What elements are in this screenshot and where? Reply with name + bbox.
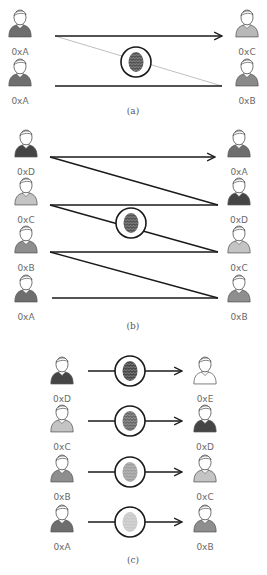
user-label: 0xB: [230, 312, 247, 322]
link-line: [50, 252, 218, 298]
user-label: 0xB: [196, 542, 213, 552]
user-avatar: [236, 10, 258, 37]
user-label: 0xA: [53, 542, 71, 552]
user-avatar: [228, 275, 250, 302]
caption-a: (a): [127, 106, 139, 116]
user-avatar: [51, 455, 73, 482]
user-avatar: [228, 130, 250, 157]
user-label: 0xB: [17, 263, 34, 273]
user-label: 0xD: [230, 215, 248, 225]
user-label: 0xA: [17, 312, 35, 322]
user-label: 0xB: [238, 96, 255, 106]
panel-b: 0xD 0xC 0xB 0xA 0xA 0xD 0xC 0xB (b): [15, 130, 250, 331]
user-avatar: [194, 455, 216, 482]
user-label: 0xB: [53, 492, 70, 502]
user-label: 0xC: [53, 442, 70, 452]
fingerprint-icon: [115, 457, 145, 487]
user-label: 0xA: [230, 167, 248, 177]
user-avatar: [228, 226, 250, 253]
user-avatar: [194, 505, 216, 532]
user-avatar: [228, 178, 250, 205]
user-avatar: [9, 59, 31, 86]
user-label: 0xC: [238, 47, 255, 57]
user-label: 0xC: [196, 492, 213, 502]
user-label: 0xD: [17, 167, 35, 177]
user-avatar: [9, 10, 31, 37]
user-label: 0xD: [53, 394, 71, 404]
fingerprint-icon: [115, 507, 145, 537]
caption-b: (b): [127, 321, 140, 331]
caption-c: (c): [127, 555, 139, 565]
user-label: 0xD: [196, 442, 214, 452]
user-label: 0xA: [11, 47, 29, 57]
user-avatar: [51, 357, 73, 384]
user-label: 0xC: [17, 215, 34, 225]
user-avatar: [51, 505, 73, 532]
user-avatar: [51, 405, 73, 432]
user-label: 0xE: [197, 394, 214, 404]
diagram-canvas: 0xA 0xA 0xC 0xB (a) 0xD 0xC 0xB 0x: [0, 0, 267, 575]
panel-a: 0xA 0xA 0xC 0xB (a): [9, 10, 258, 116]
user-avatar: [15, 130, 37, 157]
user-label: 0xA: [11, 96, 29, 106]
fingerprint-icon: [116, 208, 146, 238]
fingerprint-icon: [121, 47, 151, 77]
user-label: 0xC: [230, 263, 247, 273]
user-avatar: [15, 275, 37, 302]
user-avatar: [15, 178, 37, 205]
link-line: [50, 157, 218, 205]
user-avatar: [194, 357, 216, 384]
user-avatar: [15, 226, 37, 253]
fingerprint-icon: [115, 356, 145, 386]
panel-c: 0xD 0xE 0xC 0xD 0xB 0xC: [51, 356, 216, 565]
user-avatar: [194, 405, 216, 432]
user-avatar: [236, 59, 258, 86]
fingerprint-icon: [115, 406, 145, 436]
